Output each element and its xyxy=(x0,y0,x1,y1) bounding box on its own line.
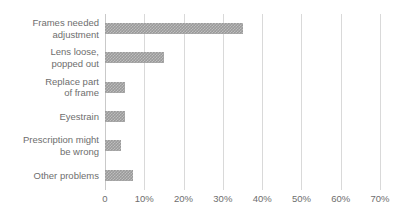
x-tick-label-60: 60% xyxy=(331,193,350,205)
category-label: Frames neededadjustment xyxy=(0,14,99,43)
bar xyxy=(105,170,133,181)
category-label-line: of frame xyxy=(64,87,99,99)
bar-row xyxy=(105,43,380,72)
bar-row xyxy=(105,102,380,131)
plot-area xyxy=(105,14,380,190)
x-tick-label-0: 0 xyxy=(102,193,107,205)
bar xyxy=(105,111,125,122)
category-label: Prescription mightbe wrong xyxy=(0,131,99,160)
x-tick-label-30: 30% xyxy=(213,193,232,205)
category-label-line: be wrong xyxy=(60,146,99,158)
x-tick-label-20: 20% xyxy=(174,193,193,205)
category-label-line: Replace part xyxy=(45,76,99,88)
category-label-line: popped out xyxy=(51,58,99,70)
x-tick-label-50: 50% xyxy=(292,193,311,205)
x-tick-label-70: 70% xyxy=(370,193,389,205)
x-tick-label-10: 10% xyxy=(135,193,154,205)
bar-row xyxy=(105,161,380,190)
bar xyxy=(105,140,121,151)
category-label-line: Lens loose, xyxy=(50,46,99,58)
bar-row xyxy=(105,73,380,102)
category-label-line: Prescription might xyxy=(23,134,99,146)
bar xyxy=(105,23,243,34)
category-label: Other problems xyxy=(0,161,99,190)
bar xyxy=(105,52,164,63)
category-label: Replace partof frame xyxy=(0,73,99,102)
category-axis-labels: Frames neededadjustmentLens loose,popped… xyxy=(0,14,99,190)
x-axis-tick-labels: 010%20%30%40%50%60%70% xyxy=(105,193,380,207)
bar xyxy=(105,82,125,93)
category-label: Eyestrain xyxy=(0,102,99,131)
bar-chart: Frames neededadjustmentLens loose,popped… xyxy=(0,0,399,218)
category-label: Lens loose,popped out xyxy=(0,43,99,72)
gridline-70 xyxy=(380,14,381,190)
x-tick-label-40: 40% xyxy=(253,193,272,205)
category-label-line: adjustment xyxy=(53,29,99,41)
bar-row xyxy=(105,131,380,160)
bar-series xyxy=(105,14,380,190)
bar-row xyxy=(105,14,380,43)
category-label-line: Other problems xyxy=(34,170,99,182)
category-label-line: Frames needed xyxy=(32,17,99,29)
category-label-line: Eyestrain xyxy=(59,111,99,123)
